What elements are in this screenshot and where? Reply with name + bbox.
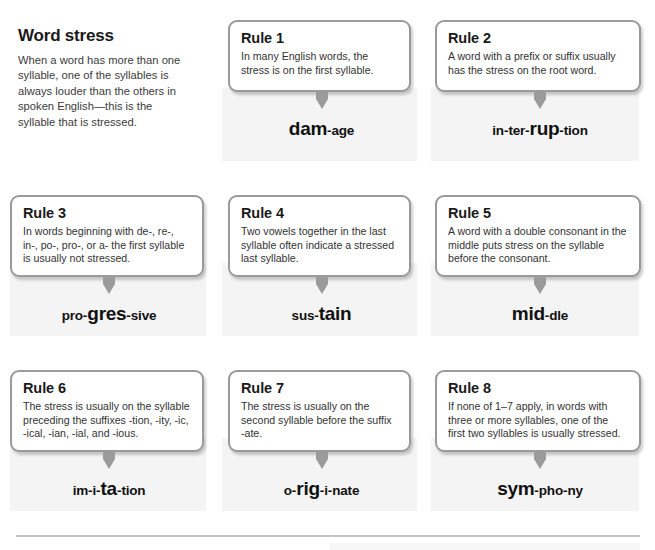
syllable: dle	[549, 308, 568, 323]
example-word: dam-age	[218, 118, 425, 140]
rule-cell-8: Rule 8 If none of 1–7 apply, in words wi…	[425, 350, 655, 525]
syllable: o	[284, 483, 292, 498]
stressed-syllable: tain	[319, 303, 352, 324]
rule-description: A word with a double consonant in the mi…	[448, 225, 628, 266]
syllable: age	[332, 123, 355, 138]
intro-paragraph: When a word has more than one syllable, …	[18, 53, 190, 130]
rule-cell-7: Rule 7 The stress is usually on the seco…	[218, 350, 425, 525]
rule-description: In words beginning with de-, re-, in-, p…	[23, 225, 191, 266]
example-word: sym-pho-ny	[425, 478, 655, 500]
rule-title: Rule 6	[23, 380, 191, 397]
stressed-syllable: dam	[289, 118, 327, 139]
footer-panel	[330, 543, 640, 550]
example-word: mid-dle	[425, 303, 655, 325]
rule-description: If none of 1–7 apply, in words with thre…	[448, 400, 628, 441]
syllable: tion	[121, 483, 145, 498]
stressed-syllable: rig	[296, 478, 319, 499]
word-stress-infographic: Word stress When a word has more than on…	[0, 0, 655, 550]
rule-title: Rule 5	[448, 205, 628, 222]
rule-cell-4: Rule 4 Two vowels together in the last s…	[218, 175, 425, 350]
rules-grid: Word stress When a word has more than on…	[0, 0, 655, 532]
rule-title: Rule 4	[241, 205, 398, 222]
stressed-syllable: ta	[101, 478, 117, 499]
rule-description: A word with a prefix or suffix usually h…	[448, 50, 628, 77]
rule-card[interactable]: Rule 7 The stress is usually on the seco…	[228, 370, 411, 452]
rule-description: The stress is usually on the syllable pr…	[23, 400, 191, 441]
syllable: pho	[539, 483, 563, 498]
example-word: sus-tain	[218, 303, 425, 325]
rule-card[interactable]: Rule 6 The stress is usually on the syll…	[10, 370, 204, 452]
rule-card[interactable]: Rule 5 A word with a double consonant in…	[435, 195, 641, 277]
syllable: sive	[131, 308, 156, 323]
syllable: im	[73, 483, 88, 498]
syllable: ny	[567, 483, 582, 498]
rule-description: Two vowels together in the last syllable…	[241, 225, 398, 266]
stressed-syllable: sym	[497, 478, 534, 499]
rule-description: In many English words, the stress is on …	[241, 50, 398, 77]
example-word: o-rig-i-nate	[218, 478, 425, 500]
syllable: pro	[62, 308, 83, 323]
rule-title: Rule 3	[23, 205, 191, 222]
rule-title: Rule 8	[448, 380, 628, 397]
rule-cell-3: Rule 3 In words beginning with de-, re-,…	[0, 175, 218, 350]
stressed-syllable: rup	[530, 118, 560, 139]
syllable: in	[492, 123, 504, 138]
rule-title: Rule 7	[241, 380, 398, 397]
intro-block: Word stress When a word has more than on…	[0, 0, 218, 175]
example-word: in-ter-rup-tion	[425, 118, 655, 140]
rule-cell-1: Rule 1 In many English words, the stress…	[218, 0, 425, 175]
rule-cell-6: Rule 6 The stress is usually on the syll…	[0, 350, 218, 525]
rule-card[interactable]: Rule 4 Two vowels together in the last s…	[228, 195, 411, 277]
stressed-syllable: mid	[512, 303, 545, 324]
rule-title: Rule 2	[448, 30, 628, 47]
page-title: Word stress	[18, 26, 190, 46]
example-word: im-i-ta-tion	[0, 478, 218, 500]
rule-description: The stress is usually on the second syll…	[241, 400, 398, 441]
example-word: pro-gres-sive	[0, 303, 218, 325]
syllable: sus	[292, 308, 315, 323]
stressed-syllable: gres	[87, 303, 126, 324]
rule-card[interactable]: Rule 3 In words beginning with de-, re-,…	[10, 195, 204, 277]
rule-card[interactable]: Rule 8 If none of 1–7 apply, in words wi…	[435, 370, 641, 452]
syllable: nate	[332, 483, 359, 498]
rule-cell-2: Rule 2 A word with a prefix or suffix us…	[425, 0, 655, 175]
rule-card[interactable]: Rule 1 In many English words, the stress…	[228, 20, 411, 92]
rule-card[interactable]: Rule 2 A word with a prefix or suffix us…	[435, 20, 641, 92]
syllable: tion	[564, 123, 588, 138]
footer-divider	[16, 535, 640, 537]
syllable: ter	[508, 123, 525, 138]
rule-title: Rule 1	[241, 30, 398, 47]
rule-cell-5: Rule 5 A word with a double consonant in…	[425, 175, 655, 350]
